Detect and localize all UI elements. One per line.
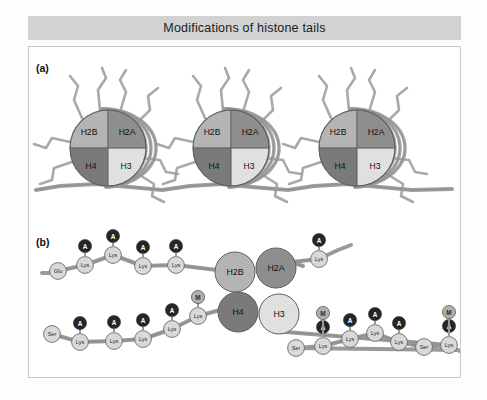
panel-b-label: (b) [36, 236, 49, 248]
figure-root: Modifications of histone tails (a) (b) H… [0, 0, 487, 400]
panel-a-label: (a) [36, 62, 49, 74]
figure-content-panel [28, 46, 461, 378]
figure-title-bar: Modifications of histone tails [28, 16, 461, 40]
figure-title: Modifications of histone tails [163, 21, 325, 35]
